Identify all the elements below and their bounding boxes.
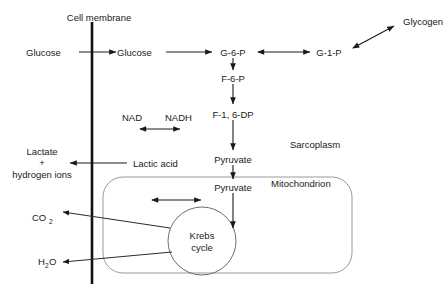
arrow-krebs-to-h2o <box>63 252 172 262</box>
label-nadh: NADH <box>165 112 192 123</box>
label-mitochondrion: Mitochondrion <box>271 178 331 189</box>
diagram-canvas: Cell membrane Glucose Glucose G-6-P G-1-… <box>0 0 446 290</box>
label-pyruvate-mitochondrion: Pyruvate <box>214 182 252 193</box>
label-glucose-extracellular: Glucose <box>26 47 61 58</box>
label-hydrogen-ions: hydrogen ions <box>12 169 72 180</box>
arrow-krebs-to-co2 <box>63 212 170 228</box>
label-co2-subscript: 2 <box>49 218 53 225</box>
glycolysis-diagram: Cell membrane Glucose Glucose G-6-P G-1-… <box>0 0 446 290</box>
label-glycogen: Glycogen <box>403 16 443 27</box>
label-krebs-cycle-line1: Krebs <box>190 230 215 241</box>
label-pyruvate-sarcoplasm: Pyruvate <box>214 154 252 165</box>
label-f6p: F-6-P <box>221 73 245 84</box>
label-co2: CO <box>32 212 46 223</box>
label-lactic-acid: Lactic acid <box>133 158 178 169</box>
label-krebs-cycle-line2: cycle <box>191 242 213 253</box>
label-cell-membrane: Cell membrane <box>67 12 131 23</box>
arrow-g1p-glycogen <box>353 26 394 48</box>
label-g6p: G-6-P <box>220 47 245 58</box>
label-sarcoplasm: Sarcoplasm <box>290 139 340 150</box>
label-h2o-oxygen: O <box>49 256 56 267</box>
label-g1p: G-1-P <box>316 47 341 58</box>
label-f16dp: F-1, 6-DP <box>212 109 253 120</box>
label-glucose-intracellular: Glucose <box>117 47 152 58</box>
label-h2o: H <box>38 256 45 267</box>
label-lactate-plus: + <box>39 157 45 168</box>
krebs-cycle-circle <box>168 207 236 275</box>
label-nad: NAD <box>122 112 142 123</box>
label-lactate: Lactate <box>26 146 57 157</box>
